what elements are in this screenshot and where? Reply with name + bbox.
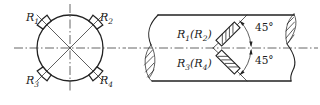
gauge-body <box>216 22 240 46</box>
left-break-lens <box>145 45 155 78</box>
gauge-label-r2: R2 <box>99 11 113 26</box>
gauge-upper <box>216 22 240 46</box>
left-break-tail <box>149 78 152 81</box>
gauge-body <box>216 50 240 74</box>
left-break-curve <box>149 15 158 45</box>
lower-angle-label: 45° <box>255 54 274 66</box>
gauge-label-r3: R3 <box>25 74 39 89</box>
right-break <box>286 14 296 81</box>
hatch-line <box>146 50 153 58</box>
right-break-curve <box>287 44 295 81</box>
hatch-line <box>288 35 294 43</box>
lower-gauge-label: R3(R4) <box>176 57 212 72</box>
lower-angle-arc <box>240 51 251 75</box>
gauge-lower <box>216 50 240 74</box>
side-view: R1(R2) R3(R4) 45° 45° <box>128 14 318 81</box>
upper-gauge-leader <box>213 43 219 49</box>
arrowhead <box>249 41 252 47</box>
hatch-line <box>146 63 155 72</box>
upper-angle-label: 45° <box>255 21 274 33</box>
strain-gauge-diagram: R1 R2 R3 R4 <box>0 0 320 105</box>
arrowhead <box>249 49 252 55</box>
upper-angle-arc <box>240 21 251 45</box>
upper-gauge-label: R1(R2) <box>176 28 212 43</box>
gauge-label-r4: R4 <box>99 74 113 89</box>
gauge-label-r1: R1 <box>25 11 39 26</box>
cross-section-view: R1 R2 R3 R4 <box>14 4 126 93</box>
lower-gauge-leader <box>213 48 219 54</box>
